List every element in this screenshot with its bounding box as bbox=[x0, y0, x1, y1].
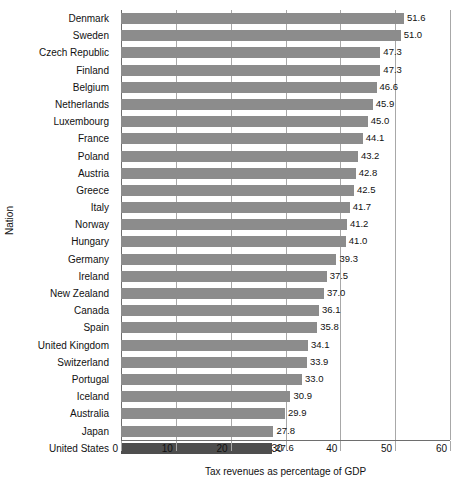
bar-value-label: 51.0 bbox=[404, 28, 423, 41]
bar bbox=[121, 391, 290, 402]
bar-row: 37.5 bbox=[121, 268, 450, 285]
bar-row: 46.6 bbox=[121, 79, 450, 96]
category-label: Finland bbox=[18, 62, 115, 79]
x-tick-label: 10 bbox=[162, 443, 173, 454]
bar bbox=[121, 185, 354, 196]
bar-row: 42.5 bbox=[121, 182, 450, 199]
category-label: Netherlands bbox=[18, 96, 115, 113]
bar-row: 35.8 bbox=[121, 319, 450, 336]
bar-row: 37.0 bbox=[121, 285, 450, 302]
bar-value-label: 35.8 bbox=[320, 320, 339, 333]
category-label: Portugal bbox=[18, 371, 115, 388]
category-label: Australia bbox=[18, 405, 115, 422]
category-label: Spain bbox=[18, 319, 115, 336]
gridline bbox=[450, 10, 451, 440]
bar-row: 51.6 bbox=[121, 10, 450, 27]
bar-value-label: 34.1 bbox=[311, 338, 330, 351]
bar bbox=[121, 82, 377, 93]
x-tick-mark bbox=[450, 441, 451, 451]
bar-row: 30.9 bbox=[121, 388, 450, 405]
category-axis-labels: DenmarkSwedenCzech RepublicFinlandBelgiu… bbox=[18, 10, 115, 440]
bar bbox=[121, 219, 347, 230]
bar bbox=[121, 271, 327, 282]
bar-row: 36.1 bbox=[121, 302, 450, 319]
bar bbox=[121, 426, 273, 437]
x-tick-mark bbox=[340, 441, 341, 451]
bar bbox=[121, 322, 317, 333]
category-label: Poland bbox=[18, 148, 115, 165]
bar-value-label: 42.8 bbox=[359, 166, 378, 179]
bar bbox=[121, 151, 358, 162]
x-tick-mark bbox=[176, 441, 177, 451]
bar bbox=[121, 374, 302, 385]
plot-area: 51.651.047.347.346.645.945.044.143.242.8… bbox=[121, 10, 450, 440]
bar-value-label: 30.9 bbox=[293, 389, 312, 402]
bar-row: 39.3 bbox=[121, 251, 450, 268]
bar bbox=[121, 99, 373, 110]
x-tick-label: 50 bbox=[381, 443, 392, 454]
bar bbox=[121, 340, 308, 351]
category-label: Canada bbox=[18, 302, 115, 319]
bar-value-label: 45.0 bbox=[371, 114, 390, 127]
x-tick-mark bbox=[121, 441, 122, 451]
bar bbox=[121, 168, 356, 179]
bar-value-label: 41.0 bbox=[349, 234, 368, 247]
x-tick-mark bbox=[395, 441, 396, 451]
x-tick-label: 20 bbox=[217, 443, 228, 454]
y-axis-title: Nation bbox=[0, 0, 18, 440]
bar bbox=[121, 254, 336, 265]
bar bbox=[121, 133, 363, 144]
category-label: Ireland bbox=[18, 268, 115, 285]
bar-row: 44.1 bbox=[121, 130, 450, 147]
bar-value-label: 46.6 bbox=[380, 80, 399, 93]
bar bbox=[121, 13, 404, 24]
category-label: Japan bbox=[18, 423, 115, 440]
bar-row: 33.9 bbox=[121, 354, 450, 371]
bar-value-label: 33.0 bbox=[305, 372, 324, 385]
bar-value-label: 29.9 bbox=[288, 406, 307, 419]
bar-row: 27.8 bbox=[121, 423, 450, 440]
bar-row: 47.3 bbox=[121, 44, 450, 61]
bar-value-label: 33.9 bbox=[310, 355, 329, 368]
bar-chart: Nation DenmarkSwedenCzech RepublicFinlan… bbox=[0, 0, 458, 484]
category-label: Belgium bbox=[18, 79, 115, 96]
x-tick-label: 60 bbox=[436, 443, 447, 454]
bar-row: 45.0 bbox=[121, 113, 450, 130]
category-label: Hungary bbox=[18, 233, 115, 250]
x-axis-title: Tax revenues as percentage of GDP bbox=[121, 466, 450, 477]
bar bbox=[121, 202, 350, 213]
bar-row: 47.3 bbox=[121, 62, 450, 79]
bar bbox=[121, 305, 319, 316]
bar-row: 41.2 bbox=[121, 216, 450, 233]
category-label: New Zealand bbox=[18, 285, 115, 302]
bar bbox=[121, 408, 285, 419]
bar-value-label: 51.6 bbox=[407, 11, 426, 24]
bar bbox=[121, 47, 380, 58]
bar-value-label: 47.3 bbox=[383, 63, 402, 76]
bar-rows: 51.651.047.347.346.645.945.044.143.242.8… bbox=[121, 10, 450, 440]
bar bbox=[121, 65, 380, 76]
bar-row: 34.1 bbox=[121, 337, 450, 354]
category-label: Switzerland bbox=[18, 354, 115, 371]
category-label: Iceland bbox=[18, 388, 115, 405]
bar-value-label: 47.3 bbox=[383, 45, 402, 58]
bar bbox=[121, 236, 346, 247]
category-label: Germany bbox=[18, 251, 115, 268]
y-axis-title-text: Nation bbox=[4, 206, 15, 235]
x-tick-mark bbox=[231, 441, 232, 451]
category-label: Norway bbox=[18, 216, 115, 233]
category-label: Luxembourg bbox=[18, 113, 115, 130]
bar-value-label: 41.7 bbox=[353, 200, 372, 213]
x-tick-label: 40 bbox=[326, 443, 337, 454]
category-label: Austria bbox=[18, 165, 115, 182]
category-label: United Kingdom bbox=[18, 337, 115, 354]
bar-row: 41.0 bbox=[121, 233, 450, 250]
category-label: Greece bbox=[18, 182, 115, 199]
category-label: Czech Republic bbox=[18, 44, 115, 61]
bar-row: 29.9 bbox=[121, 405, 450, 422]
bar-value-label: 27.8 bbox=[276, 424, 295, 437]
x-tick-mark bbox=[286, 441, 287, 451]
category-label: Italy bbox=[18, 199, 115, 216]
bar-value-label: 42.5 bbox=[357, 183, 376, 196]
bar-row: 43.2 bbox=[121, 148, 450, 165]
